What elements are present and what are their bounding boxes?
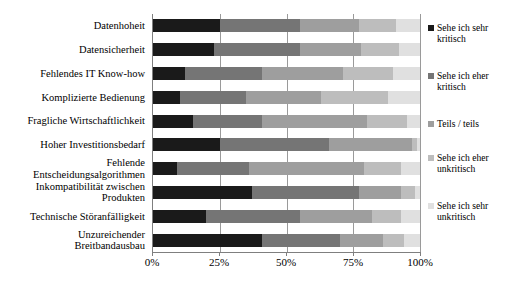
bar-segment (153, 43, 214, 56)
bar-segment (401, 162, 420, 175)
category-label: Hoher Investitionsbedarf (0, 133, 150, 157)
legend-swatch-icon (428, 121, 434, 127)
category-label: Datenhoheit (0, 14, 150, 38)
bar-row (153, 204, 420, 228)
category-label: Inkompatibilität zwischen Produkten (0, 181, 150, 205)
x-tick-label: 50% (276, 256, 296, 268)
bar-segment (185, 67, 262, 80)
stacked-bar (153, 43, 420, 56)
bar-segment (399, 43, 420, 56)
bar-segment (262, 234, 339, 247)
bar-segment (300, 19, 359, 32)
bar-segment (153, 19, 220, 32)
legend-swatch-icon (428, 203, 434, 209)
bar-segment (396, 19, 420, 32)
stacked-bar (153, 67, 420, 80)
bar-segment (404, 234, 420, 247)
gridline (420, 14, 421, 252)
category-label: Fehlendes IT Know-how (0, 62, 150, 86)
bar-segment (214, 43, 299, 56)
bar-segment (415, 186, 420, 199)
bar-segment (361, 43, 398, 56)
bar-segment (252, 186, 359, 199)
category-label: Komplizierte Bedienung (0, 85, 150, 109)
legend-item[interactable]: Sehe ich eher unkritisch (428, 152, 521, 175)
legend-item[interactable]: Teils / teils (428, 118, 521, 129)
legend-swatch-icon (428, 25, 434, 31)
legend-label: Sehe ich eher unkritisch (437, 152, 489, 175)
bar-segment (401, 210, 420, 223)
legend-label: Sehe ich sehr unkritisch (437, 200, 488, 223)
bar-segment (153, 67, 185, 80)
bar-segment (364, 162, 401, 175)
bar-segment (401, 186, 414, 199)
x-tick-label: 100% (407, 256, 433, 268)
category-label: Technische Störanfälligkeit (0, 204, 150, 228)
bar-segment (388, 91, 420, 104)
bar-segment (300, 43, 361, 56)
bar-segment (193, 115, 262, 128)
bar-row (153, 109, 420, 133)
legend-item[interactable]: Sehe ich sehr unkritisch (428, 200, 521, 223)
stacked-bar (153, 115, 420, 128)
legend-swatch-icon (428, 73, 434, 79)
x-tick-label: 25% (209, 256, 229, 268)
bar-segment (383, 234, 404, 247)
stacked-bar (153, 19, 420, 32)
chart-legend: Sehe ich sehr kritischSehe ich eher krit… (428, 22, 521, 242)
bar-row (153, 62, 420, 86)
bar-segment (220, 19, 300, 32)
x-axis-tick-labels: 0%25%50%75%100% (152, 256, 420, 272)
bar-segment (206, 210, 299, 223)
legend-item[interactable]: Sehe ich eher kritisch (428, 70, 521, 93)
bar-segment (407, 115, 420, 128)
bar-segment (153, 138, 220, 151)
bar-segment (153, 186, 252, 199)
bar-row (153, 85, 420, 109)
bar-segment (321, 91, 388, 104)
bar-segment (220, 138, 329, 151)
legend-item[interactable]: Sehe ich sehr kritisch (428, 22, 521, 45)
bar-segment (343, 67, 394, 80)
bar-segment (417, 138, 420, 151)
bar-rows (153, 14, 420, 252)
bar-segment (153, 162, 177, 175)
stacked-bar (153, 138, 420, 151)
bar-segment (329, 138, 412, 151)
bar-segment (153, 210, 206, 223)
bar-segment (359, 186, 402, 199)
bar-segment (153, 91, 180, 104)
stacked-bar (153, 234, 420, 247)
bar-segment (177, 162, 249, 175)
bar-row (153, 181, 420, 205)
legend-label: Teils / teils (437, 118, 479, 129)
category-axis-labels: DatenhoheitDatensicherheitFehlendes IT K… (0, 14, 150, 252)
category-label: Unzureichender Breitbandausbau (0, 228, 150, 252)
legend-label: Sehe ich sehr kritisch (437, 22, 488, 45)
bar-row (153, 14, 420, 38)
bar-segment (372, 210, 401, 223)
bar-row (153, 38, 420, 62)
bar-segment (262, 67, 342, 80)
bar-row (153, 133, 420, 157)
bar-segment (340, 234, 383, 247)
category-label: Fehlende Entscheidungsalgorithmen (0, 157, 150, 181)
category-label: Fragliche Wirtschaftlichkeit (0, 109, 150, 133)
stacked-bar (153, 91, 420, 104)
stacked-bar (153, 186, 420, 199)
legend-label: Sehe ich eher kritisch (437, 70, 489, 93)
bar-segment (153, 234, 262, 247)
plot-area (152, 14, 420, 252)
bar-row (153, 157, 420, 181)
bar-segment (153, 115, 193, 128)
bar-segment (300, 210, 372, 223)
category-label: Datensicherheit (0, 38, 150, 62)
stacked-bar-chart: DatenhoheitDatensicherheitFehlendes IT K… (0, 0, 523, 285)
bar-segment (393, 67, 420, 80)
bar-segment (180, 91, 247, 104)
bar-segment (262, 115, 366, 128)
legend-swatch-icon (428, 155, 434, 161)
bar-segment (249, 162, 364, 175)
stacked-bar (153, 162, 420, 175)
stacked-bar (153, 210, 420, 223)
